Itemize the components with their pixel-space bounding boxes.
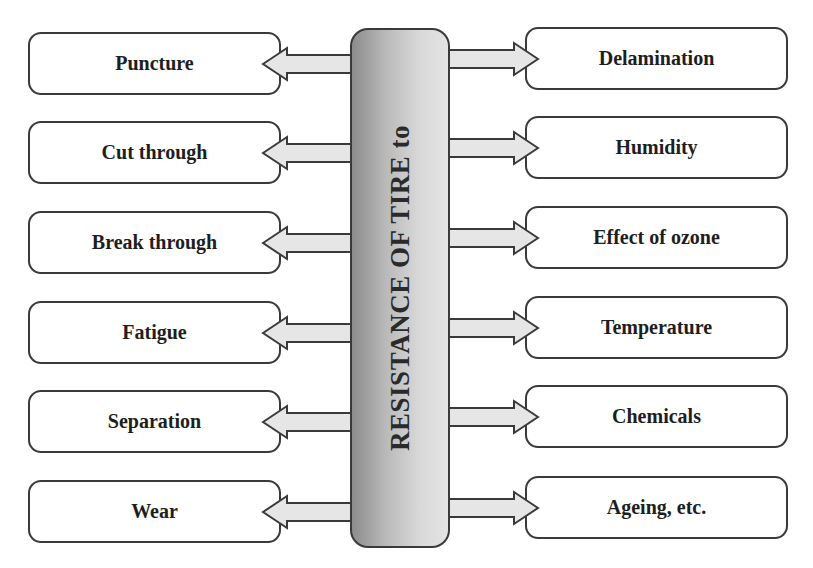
left-factor-box: Separation (28, 390, 281, 453)
factor-label: Fatigue (122, 321, 186, 344)
left-arrow-icon (263, 495, 363, 529)
right-arrow-icon (438, 221, 538, 255)
left-arrow-icon (263, 405, 363, 439)
left-factor-box: Break through (28, 211, 281, 274)
right-factor-box: Temperature (525, 296, 788, 359)
center-pill: RESISTANCE OF TIRE to (350, 28, 450, 548)
center-label: RESISTANCE OF TIRE to (385, 125, 416, 451)
right-factor-box: Ageing, etc. (525, 476, 788, 539)
factor-label: Humidity (615, 136, 697, 159)
factor-label: Temperature (601, 316, 712, 339)
factor-label: Effect of ozone (593, 226, 720, 249)
factor-label: Separation (108, 410, 201, 433)
left-factor-box: Cut through (28, 121, 281, 184)
factor-label: Wear (131, 500, 178, 523)
right-factor-box: Delamination (525, 27, 788, 90)
left-arrow-icon (263, 316, 363, 350)
factor-label: Break through (92, 231, 217, 254)
left-factor-box: Wear (28, 480, 281, 543)
right-factor-box: Humidity (525, 116, 788, 179)
right-arrow-icon (438, 491, 538, 525)
factor-label: Chemicals (612, 405, 701, 428)
left-arrow-icon (263, 226, 363, 260)
right-arrow-icon (438, 311, 538, 345)
left-arrow-icon (263, 136, 363, 170)
left-factor-box: Puncture (28, 32, 281, 95)
right-arrow-icon (438, 131, 538, 165)
right-factor-box: Chemicals (525, 385, 788, 448)
factor-label: Cut through (102, 141, 208, 164)
right-factor-box: Effect of ozone (525, 206, 788, 269)
left-arrow-icon (263, 47, 363, 81)
right-arrow-icon (438, 42, 538, 76)
factor-label: Delamination (599, 47, 715, 70)
right-arrow-icon (438, 400, 538, 434)
factor-label: Ageing, etc. (607, 496, 706, 519)
factor-label: Puncture (115, 52, 194, 75)
left-factor-box: Fatigue (28, 301, 281, 364)
